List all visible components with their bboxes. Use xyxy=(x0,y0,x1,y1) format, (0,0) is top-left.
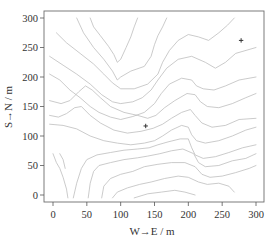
x-tick-label: 200 xyxy=(180,209,196,220)
x-tick-label: 0 xyxy=(50,209,55,220)
y-tick-label: 200 xyxy=(22,72,38,83)
x-axis-label: W→E / m xyxy=(129,225,175,237)
y-tick-label: 300 xyxy=(22,13,38,24)
x-tick-label: 100 xyxy=(113,209,129,220)
x-tick-label: 150 xyxy=(147,209,163,220)
x-tick-label: 50 xyxy=(82,209,93,220)
y-tick-label: 150 xyxy=(22,101,38,112)
x-tick-label: 300 xyxy=(248,209,264,220)
x-axis-ticks: 050100150200250300 xyxy=(50,202,264,220)
y-tick-label: 50 xyxy=(28,160,39,171)
y-tick-label: 0 xyxy=(33,190,38,201)
x-tick-label: 250 xyxy=(214,209,230,220)
y-tick-label: 250 xyxy=(22,42,38,53)
y-axis-label: S→N / m xyxy=(2,85,14,128)
contour-chart: 050100150200250300 050100150200250300 W→… xyxy=(0,0,272,243)
y-axis-ticks: 050100150200250300 xyxy=(22,13,44,201)
y-tick-label: 100 xyxy=(22,131,38,142)
plot-background xyxy=(44,11,264,202)
